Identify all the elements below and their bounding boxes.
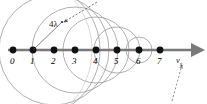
source-position-dot (51, 47, 58, 54)
source-position-dot (157, 47, 164, 54)
source-position-dot (93, 47, 100, 54)
figure-canvas (0, 0, 207, 104)
position-label-4: 4 (93, 57, 98, 66)
source-position-dot (136, 47, 143, 54)
position-label-2: 2 (51, 57, 56, 66)
velocity-leader (172, 65, 182, 101)
position-label-7: 7 (157, 57, 162, 66)
source-position-dot (114, 47, 121, 54)
position-label-6: 6 (136, 57, 141, 66)
source-position-dot (72, 47, 79, 54)
radius-endpoint-dot (61, 21, 63, 23)
source-position-dot (10, 47, 17, 54)
position-label-0: 0 (10, 57, 15, 66)
wavelength-label: 4λ (49, 20, 58, 29)
doppler-wavefront-figure: 01234567 4λ vs (0, 0, 207, 104)
source-velocity-label: vs (176, 56, 182, 67)
velocity-subscript: s (180, 61, 182, 67)
position-label-5: 5 (114, 57, 119, 66)
position-label-3: 3 (72, 57, 77, 66)
position-label-1: 1 (30, 57, 35, 66)
